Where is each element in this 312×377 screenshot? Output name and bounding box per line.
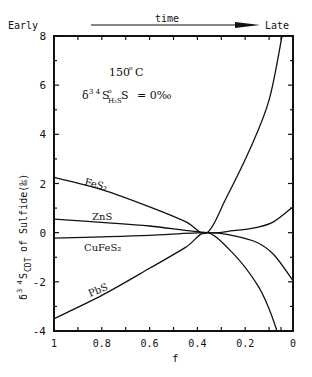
svg-text:H₂S: H₂S <box>108 97 122 105</box>
svg-text:o: o <box>129 64 133 71</box>
x-tick-labels: 10.80.60.40.20 <box>51 338 296 349</box>
y-tick-label: 2 <box>39 178 46 191</box>
svg-text:o: o <box>108 87 112 94</box>
label-early: Early <box>8 20 38 31</box>
svg-text:δ: δ <box>18 294 29 300</box>
svg-text:S: S <box>18 273 29 279</box>
x-axis-label: f <box>172 352 179 365</box>
condition-annotation: δ 3 4 S o H₂S S = 0‰ <box>82 87 172 105</box>
x-tick-label: 0.6 <box>141 338 159 349</box>
svg-text:3 4: 3 4 <box>16 280 24 293</box>
y-tick-label: 8 <box>39 30 46 43</box>
svg-text:CDT: CDT <box>24 257 33 272</box>
y-tick-label: 0 <box>39 227 46 240</box>
curve-fes2 <box>54 36 282 234</box>
x-tick-label: 0.8 <box>93 338 111 349</box>
svg-text:3 4: 3 4 <box>89 88 101 96</box>
svg-text:of Sulfide(‰): of Sulfide(‰) <box>18 174 29 252</box>
y-tick-label: -4 <box>33 325 47 338</box>
y-tick-label: 6 <box>39 79 46 92</box>
x-tick-label: 0.4 <box>188 338 206 349</box>
curve-cufes2 <box>54 233 293 281</box>
x-tick-label: 0.2 <box>236 338 254 349</box>
chart-figure: Early time Late 86420-2-4 10.80.60.40.20… <box>0 0 312 377</box>
y-axis-label: δ 3 4 S CDT of Sulfide(‰) <box>16 174 33 300</box>
temperature-annotation: 150 o C <box>109 64 143 79</box>
svg-text:150: 150 <box>109 66 130 79</box>
time-arrow-head <box>235 22 260 28</box>
curve-label-pbs: PbS <box>87 281 110 299</box>
label-time: time <box>155 13 179 24</box>
x-tick-label: 0 <box>290 338 296 349</box>
y-tick-labels: 86420-2-4 <box>33 30 47 338</box>
curve-label-fes2: FeS₂ <box>84 176 109 192</box>
svg-text:C: C <box>135 66 143 79</box>
svg-text:δ: δ <box>82 89 89 102</box>
svg-text:= 0‰: = 0‰ <box>137 89 172 102</box>
curve-zns <box>54 207 293 233</box>
x-tick-label: 1 <box>51 338 57 349</box>
label-late: Late <box>265 20 289 31</box>
y-tick-label: 4 <box>39 128 46 141</box>
curve-label-zns: ZnS <box>92 211 112 222</box>
svg-text:S: S <box>121 89 129 102</box>
curve-label-cufes2: CuFeS₂ <box>84 242 121 253</box>
y-tick-label: -2 <box>33 276 46 289</box>
